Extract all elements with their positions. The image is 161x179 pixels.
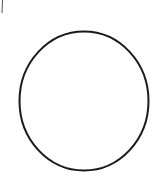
circle-shape	[20, 32, 149, 171]
drawing-canvas	[0, 0, 161, 179]
drawing-svg	[0, 0, 161, 179]
corner-stroke-fragment	[2, 0, 3, 13]
